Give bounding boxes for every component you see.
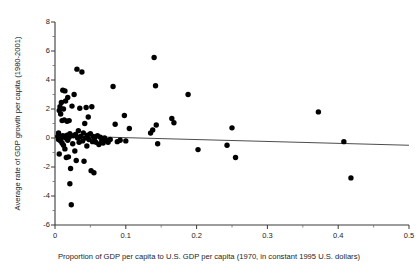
- data-point: [155, 141, 160, 146]
- data-point: [65, 95, 70, 100]
- y-axis-title: Average rate of GDP growth per capita (1…: [13, 14, 22, 234]
- y-tick-label: -2: [26, 163, 50, 171]
- data-point: [74, 158, 79, 163]
- data-point: [66, 118, 71, 123]
- data-point: [67, 181, 72, 186]
- data-point: [153, 83, 158, 88]
- x-axis-title: Proportion of GDP per capita to U.S. GDP…: [0, 252, 418, 261]
- data-point: [154, 122, 159, 127]
- x-tick-label: 0.1: [121, 232, 131, 240]
- data-point: [86, 114, 91, 119]
- data-point: [62, 88, 67, 93]
- x-tick-label: 0.3: [262, 232, 272, 240]
- data-point: [341, 139, 346, 144]
- y-tick-label: 0: [26, 134, 50, 142]
- data-point: [66, 154, 71, 159]
- data-point: [62, 146, 67, 151]
- axes: [55, 22, 409, 225]
- y-tick-label: 6: [26, 47, 50, 55]
- data-point: [82, 121, 87, 126]
- y-tick-label: 4: [26, 76, 50, 84]
- data-point: [76, 128, 81, 133]
- data-point: [151, 55, 156, 60]
- data-point: [110, 84, 115, 89]
- scatter-chart: 86420-2-4-6 00.10.20.30.40.5 Proportion …: [0, 0, 418, 275]
- data-point: [108, 137, 113, 142]
- x-tick-label: 0: [53, 232, 57, 240]
- data-point: [83, 105, 88, 110]
- data-point: [171, 120, 176, 125]
- data-point: [122, 113, 127, 118]
- data-point: [58, 111, 63, 116]
- data-point: [229, 125, 234, 130]
- plot-canvas: [0, 0, 418, 275]
- data-point: [316, 109, 321, 114]
- axis-ticks: [51, 22, 409, 229]
- data-point: [68, 166, 73, 171]
- data-point: [74, 66, 79, 71]
- x-tick-label: 0.2: [191, 232, 201, 240]
- data-point: [77, 106, 82, 111]
- data-point: [61, 106, 66, 111]
- data-point: [79, 69, 84, 74]
- data-point: [71, 92, 76, 97]
- data-point: [117, 137, 122, 142]
- data-point: [127, 126, 132, 131]
- data-point: [57, 151, 62, 156]
- y-tick-label: -6: [26, 221, 50, 229]
- data-point: [69, 103, 74, 108]
- y-tick-label: 8: [26, 18, 50, 26]
- x-tick-label: 0.5: [404, 232, 414, 240]
- x-tick-label: 0.4: [333, 232, 343, 240]
- data-point: [112, 122, 117, 127]
- data-point: [89, 104, 94, 109]
- data-point: [84, 143, 89, 148]
- y-tick-label: -4: [26, 192, 50, 200]
- data-point: [150, 127, 155, 132]
- data-point: [72, 148, 77, 153]
- data-point: [70, 141, 75, 146]
- data-point: [81, 159, 86, 164]
- data-point: [348, 175, 353, 180]
- data-point: [69, 202, 74, 207]
- data-point: [185, 92, 190, 97]
- data-point: [91, 170, 96, 175]
- y-tick-label: 2: [26, 105, 50, 113]
- data-point: [123, 138, 128, 143]
- data-point: [195, 147, 200, 152]
- data-point: [224, 143, 229, 148]
- data-points: [55, 55, 354, 208]
- data-point: [233, 155, 238, 160]
